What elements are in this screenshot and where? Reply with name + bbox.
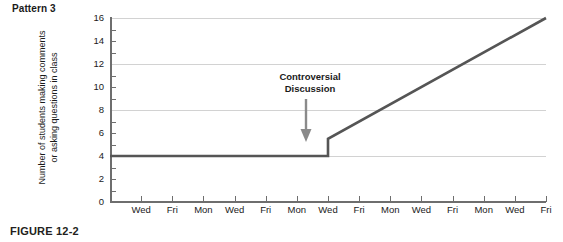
y-axis-tick-label: 14 (84, 36, 104, 46)
y-axis-tick-label: 0 (84, 197, 104, 207)
x-axis-tick (546, 196, 547, 202)
y-axis-tick-label: 12 (84, 59, 104, 69)
y-axis-tick-labels: 0246810121416 (84, 18, 104, 202)
arrow-down-icon (296, 99, 316, 143)
data-line (110, 18, 546, 202)
y-axis-tick-label: 16 (84, 13, 104, 23)
pattern-label: Pattern 3 (12, 3, 56, 14)
x-axis-tick-labels: WedFriMonWedFriMonWedFriMonWedFriMonWedF… (110, 204, 546, 218)
figure-caption: FIGURE 12-2 (10, 225, 79, 237)
y-axis-tick-label: 8 (84, 105, 104, 115)
y-axis-tick-label: 2 (84, 174, 104, 184)
annotation-line-1: Controversial (246, 71, 374, 83)
y-axis-tick-label: 4 (84, 151, 104, 161)
y-axis-title-line-2: or asking questions in class (48, 18, 60, 198)
annotation-label: Controversial Discussion (246, 71, 374, 94)
y-axis-title-line-1: Number of students making comments (37, 18, 49, 198)
y-axis-title: Number of students making comments or as… (37, 18, 60, 198)
y-axis-tick-label: 6 (84, 128, 104, 138)
y-axis-tick-label: 10 (84, 82, 104, 92)
x-axis-tick-label: Fri (526, 204, 563, 216)
annotation-line-2: Discussion (246, 83, 374, 95)
figure-container: Pattern 3 Number of students making comm… (0, 0, 563, 242)
